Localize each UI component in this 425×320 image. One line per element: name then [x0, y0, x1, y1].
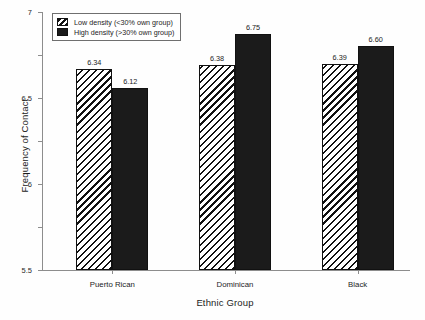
bar-low-density — [322, 64, 358, 270]
bar-high-density — [358, 46, 394, 270]
y-tick-label: 6.5 — [22, 94, 32, 103]
x-tick-mark — [358, 270, 359, 274]
bar-value-label: 6.38 — [210, 54, 224, 63]
bar-low-density — [76, 69, 112, 270]
legend-item: High density (>30% own group) — [57, 27, 174, 37]
bar-value-label: 6.60 — [369, 35, 383, 44]
legend-swatch-low-density — [57, 18, 68, 26]
y-axis-line — [42, 12, 43, 270]
x-tick-label: Dominican — [217, 280, 254, 289]
plot-area: 44.555.566.57 Puerto RicanDominicanBlack… — [42, 12, 410, 270]
y-tick-label: 7 — [28, 8, 32, 17]
bar-high-density — [235, 34, 271, 271]
y-tick-label: 6 — [28, 180, 32, 189]
legend-label: High density (>30% own group) — [74, 28, 174, 37]
y-axis-title: Frequency of Contact — [19, 56, 30, 236]
legend-label: Low density (<30% own group) — [74, 18, 173, 27]
y-tick-mark: 7 — [38, 12, 42, 13]
x-axis-line — [42, 270, 410, 271]
bar-high-density — [112, 88, 148, 270]
y-tick-label: 5.5 — [22, 266, 32, 275]
x-tick-label: Black — [348, 280, 367, 289]
y-tick-mark: 6.5 — [38, 55, 42, 56]
bar-low-density — [199, 65, 235, 270]
x-tick-mark — [112, 270, 113, 274]
y-tick-mark: 4 — [38, 270, 42, 271]
y-tick-mark: 5.5 — [38, 141, 42, 142]
y-tick-mark: 5 — [38, 184, 42, 185]
legend-item: Low density (<30% own group) — [57, 17, 174, 27]
y-tick-mark: 6 — [38, 98, 42, 99]
x-tick-mark — [235, 270, 236, 274]
legend-swatch-high-density — [57, 28, 68, 36]
y-tick-mark: 4.5 — [38, 227, 42, 228]
bar-value-label: 6.12 — [123, 77, 137, 86]
x-axis-title: Ethnic Group — [40, 297, 410, 308]
bar-value-label: 6.34 — [87, 58, 101, 67]
chart-legend: Low density (<30% own group)High density… — [52, 13, 181, 41]
bar-value-label: 6.75 — [246, 23, 260, 32]
bar-chart-figure: Frequency of Contact Ethnic Group 44.555… — [0, 0, 425, 320]
bar-value-label: 6.39 — [333, 53, 347, 62]
x-tick-label: Puerto Rican — [90, 280, 135, 289]
